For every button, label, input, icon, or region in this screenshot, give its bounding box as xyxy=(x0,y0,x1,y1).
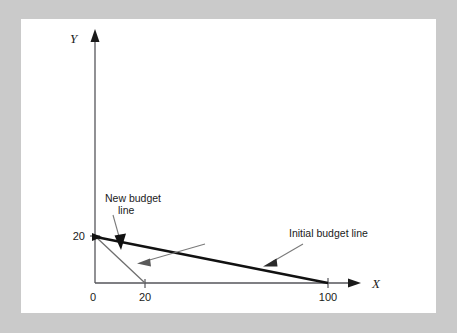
x-axis xyxy=(95,279,361,288)
new-budget-line-label-line1: New budget xyxy=(105,192,161,204)
initial-budget-line-series xyxy=(96,237,328,283)
x-tick-label-100: 100 xyxy=(319,291,337,303)
y-axis xyxy=(91,29,100,283)
new-budget-line-annotation xyxy=(113,215,126,250)
x-tick-label-0: 0 xyxy=(90,291,96,303)
y-axis-label: Y xyxy=(70,31,79,46)
x-tick-label-20: 20 xyxy=(139,291,151,303)
x-axis-label: X xyxy=(371,276,381,291)
budget-line-origin-marker xyxy=(92,233,102,241)
figure-page: Y X 0 20 100 20 New budget line xyxy=(0,0,457,333)
new-budget-line-label-line2: line xyxy=(118,204,135,216)
budget-line-diagram: Y X 0 20 100 20 New budget line xyxy=(0,0,457,333)
initial-budget-line-label: Initial budget line xyxy=(289,227,368,239)
initial-budget-line-annotation xyxy=(263,244,303,267)
y-tick-label-20: 20 xyxy=(73,230,85,242)
